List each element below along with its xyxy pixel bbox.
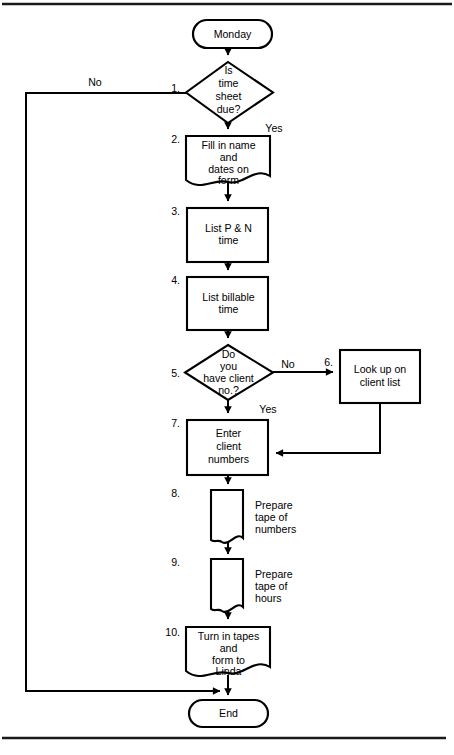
end-label: End [219, 707, 238, 719]
step2-line-2: and [220, 151, 238, 163]
node-step1-decision: 1. Is time sheet due? [171, 62, 273, 123]
node-step8-tape: 8. [171, 487, 243, 543]
node-step10-document: 10. Turn in tapes and form to Linda [165, 626, 270, 677]
step1-line-3: sheet [216, 90, 242, 102]
node-step4-process: 4. List billable time [171, 274, 268, 330]
step7-line-3: numbers [208, 453, 249, 465]
step7-line-1: Enter [216, 427, 242, 439]
step9-side-line-1: Prepare [255, 568, 293, 580]
node-end: End [189, 700, 268, 727]
node-step7-process: 7. Enter client numbers [171, 417, 268, 475]
step4-line-1: List billable [202, 291, 255, 303]
step6-line-2: client list [360, 376, 401, 388]
step8-side-line-3: numbers [255, 523, 296, 535]
node-step5-decision: 5. Do you have client no.? [171, 345, 273, 400]
step2-number: 2. [171, 133, 180, 145]
step8-number: 8. [171, 487, 180, 499]
step4-number: 4. [171, 274, 180, 286]
step4-line-2: time [218, 303, 238, 315]
step9-side-line-2: tape of [255, 580, 287, 592]
node-start-monday: Monday [193, 20, 272, 48]
step10-number: 10. [165, 626, 180, 638]
step5-line-3: have client [203, 372, 254, 384]
step3-line-1: List P & N [205, 222, 252, 234]
node-step3-process: 3. List P & N time [171, 205, 268, 262]
step1-yes-label: Yes [265, 122, 282, 134]
step10-line-1: Turn in tapes [198, 630, 259, 642]
step6-number: 6. [324, 356, 333, 368]
step9-side-line-3: hours [255, 592, 282, 604]
step1-line-4: due? [217, 103, 241, 115]
step5-line-2: you [220, 360, 237, 372]
flowchart-figure: Monday 1. Is time sheet due? No Yes 2. F… [0, 0, 454, 755]
step1-line-1: Is [224, 64, 232, 76]
step10-line-4: Linda [216, 665, 242, 677]
step1-number: 1. [171, 82, 180, 94]
step9-number: 9. [171, 556, 180, 568]
step5-yes-label: Yes [259, 403, 276, 415]
step8-side-line-1: Prepare [255, 499, 293, 511]
step10-line-2: and [220, 642, 238, 654]
connector-step6-to-step7 [276, 403, 380, 453]
step2-line-1: Fill in name [201, 139, 255, 151]
step5-line-1: Do [222, 348, 236, 360]
node-step2-document: 2. Fill in name and dates on form [171, 133, 270, 186]
node-step9-tape: 9. [171, 556, 243, 612]
step1-no-label: No [88, 76, 102, 88]
step2-line-4: form [218, 174, 239, 186]
step5-line-4: no.? [218, 384, 239, 396]
step3-line-2: time [218, 234, 238, 246]
step7-number: 7. [171, 417, 180, 429]
step7-line-2: client [216, 440, 241, 452]
step1-line-2: time [218, 77, 238, 89]
step3-number: 3. [171, 205, 180, 217]
start-label: Monday [214, 28, 252, 40]
step5-no-label: No [281, 358, 295, 370]
step6-line-1: Look up on [354, 363, 407, 375]
step5-number: 5. [171, 367, 180, 379]
node-step6-process: 6. Look up on client list [324, 350, 420, 403]
step8-side-line-2: tape of [255, 511, 287, 523]
